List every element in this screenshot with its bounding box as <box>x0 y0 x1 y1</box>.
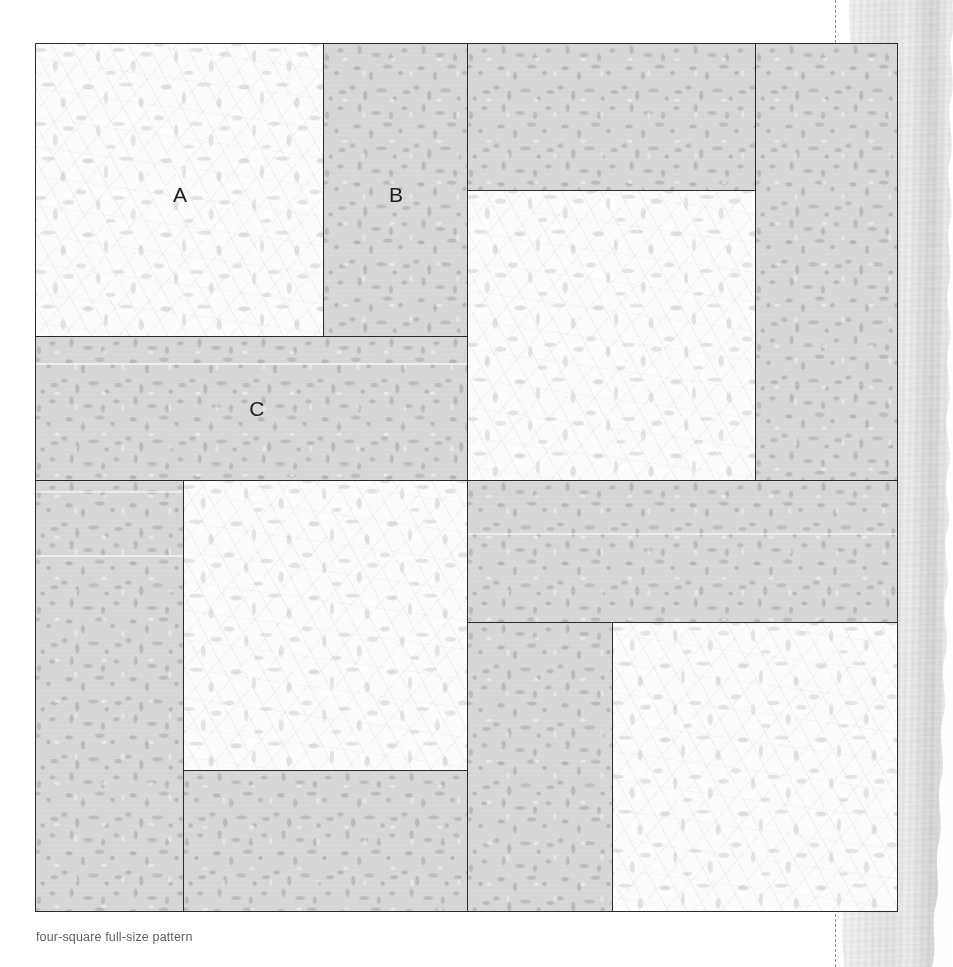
piece-b-bottom-left <box>35 480 184 912</box>
piece-c-bottom-left <box>183 770 468 912</box>
piece-a-bottom-right <box>612 622 898 912</box>
fabric-texture-speckles <box>467 480 898 623</box>
fabric-texture-lines <box>467 190 756 481</box>
figure-caption: four-square full-size pattern <box>36 930 193 944</box>
fabric-texture-speckles <box>467 43 756 191</box>
piece-b-bottom-right <box>467 622 613 912</box>
fabric-texture-lines <box>612 622 898 912</box>
quilt-block: A B C <box>35 43 898 912</box>
fabric-texture-speckles <box>183 770 468 912</box>
piece-a-top-right <box>467 190 756 481</box>
piece-b-top-right <box>755 43 898 481</box>
piece-c-top-right <box>467 43 756 191</box>
piece-c-bottom-right <box>467 480 898 623</box>
piece-label-b: B <box>389 184 403 205</box>
fabric-texture-lines <box>183 480 468 771</box>
piece-a-bottom-left <box>183 480 468 771</box>
fabric-texture-speckles <box>35 480 184 912</box>
fabric-texture-speckles <box>755 43 898 481</box>
piece-label-c: C <box>249 398 264 419</box>
piece-label-a: A <box>173 184 187 205</box>
fabric-texture-speckles <box>467 622 613 912</box>
pattern-page: A B C four-square full-size pattern <box>0 0 953 967</box>
